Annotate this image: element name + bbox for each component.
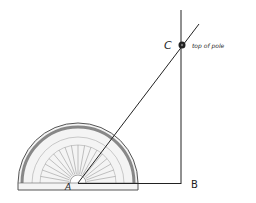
label-b: B xyxy=(191,179,198,190)
diagram-svg: C top of pole B A xyxy=(0,0,256,203)
annotation-top-of-pole: top of pole xyxy=(192,42,225,50)
label-c: C xyxy=(164,39,172,52)
protractor xyxy=(18,123,138,190)
diagram-canvas: C top of pole B A xyxy=(0,0,256,203)
label-a: A xyxy=(64,182,71,192)
